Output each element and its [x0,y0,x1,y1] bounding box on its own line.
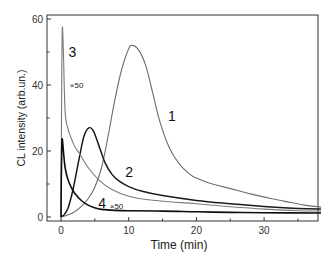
x-tick-label: 10 [123,225,135,236]
curve-label-4: 4 [98,195,106,211]
series-layer [61,27,321,217]
curve-label-2: 2 [125,164,133,180]
series-1-line [61,45,321,217]
y-axis-label: CL intensity (arb.un.) [15,69,27,166]
curve-label-3: 3 [68,44,76,60]
chart-svg: 01020300204060 123×504×50 Time (min) CL … [0,0,336,266]
curve-label-1: 1 [168,108,176,124]
y-tick-label: 20 [32,146,44,157]
x-tick-label: 20 [191,225,203,236]
x-axis-label: Time (min) [151,238,208,252]
curve-4-scale-annotation: ×50 [110,202,124,211]
x-tick-label: 0 [58,225,64,236]
plot-frame [47,15,318,221]
x-tick-label: 30 [259,225,271,236]
y-tick-label: 40 [32,80,44,91]
y-tick-label: 60 [32,14,44,25]
curve-3-scale-annotation: ×50 [70,81,84,90]
series-3-line [61,27,321,217]
y-tick-label: 0 [37,212,43,223]
chart-container: 01020300204060 123×504×50 Time (min) CL … [0,0,336,266]
